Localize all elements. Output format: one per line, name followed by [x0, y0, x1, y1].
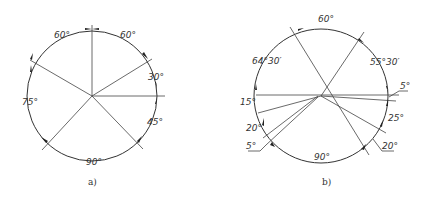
line-b-15deg [258, 96, 321, 113]
label-a-90: 90° [86, 157, 102, 167]
arrowheads-b [255, 28, 388, 150]
label-b-5-right: 5° [400, 81, 410, 91]
panel-b: 60° 64°30′ 55°30′ 5° 15° 25° 20° 5° 20° … [240, 14, 410, 187]
caption-a: a) [88, 177, 97, 187]
label-a-30: 30° [148, 72, 164, 82]
label-b-60: 60° [318, 14, 334, 24]
line-b-5deg [321, 96, 396, 101]
label-b-5-left: 5° [246, 141, 256, 151]
label-b-55-30: 55°30′ [370, 57, 399, 67]
label-a-60-left: 60° [54, 30, 70, 40]
ray-150 [30, 60, 92, 96]
ray-minus135 [42, 96, 92, 150]
diagram-canvas: 60° 60° 30° 45° 90° 75° a) [0, 0, 428, 199]
label-b-20-left: 20° [246, 123, 262, 133]
label-b-15: 15° [240, 97, 256, 107]
line-b-steep-left [290, 27, 369, 155]
arrowheads-a [30, 28, 157, 143]
label-b-64-30: 64°30′ [252, 56, 281, 66]
label-a-45: 45° [147, 117, 163, 127]
caption-b: b) [322, 177, 331, 187]
label-a-75: 75° [22, 97, 38, 107]
label-a-60-right: 60° [120, 30, 136, 40]
line-b-upper-right [321, 32, 364, 96]
ray-30 [92, 59, 152, 96]
label-b-25: 25° [388, 113, 404, 123]
line-b-25deg [321, 96, 386, 133]
label-b-20-right: 20° [382, 141, 398, 151]
label-b-90: 90° [314, 152, 330, 162]
panel-a: 60° 60° 30° 45° 90° 75° a) [22, 25, 165, 187]
ray-minus45 [92, 96, 143, 149]
leader-5-right [389, 91, 408, 97]
line-b-20deg-a [263, 96, 318, 138]
